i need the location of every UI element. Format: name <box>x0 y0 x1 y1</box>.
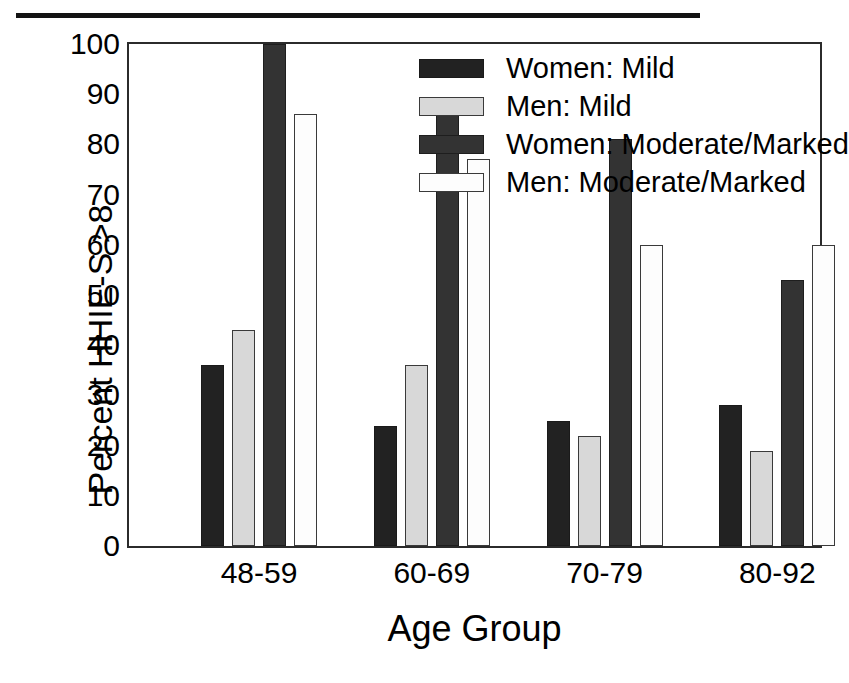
bar <box>405 365 428 546</box>
x-axis-tick-label: 60-69 <box>372 556 492 590</box>
y-axis-tick-label: 90 <box>87 79 120 109</box>
x-axis-tick-label: 70-79 <box>545 556 665 590</box>
y-axis-tick-label: 30 <box>87 380 120 410</box>
legend-swatch-icon <box>419 97 484 116</box>
y-axis-tick-label: 70 <box>87 180 120 210</box>
legend-item-label: Men: Moderate/Marked <box>506 168 806 197</box>
bar <box>232 330 255 546</box>
legend-swatch-icon <box>419 135 484 154</box>
bar <box>812 245 835 546</box>
bar <box>467 159 490 546</box>
bar <box>578 436 601 546</box>
legend-swatch-icon <box>419 59 484 78</box>
bar <box>263 44 286 546</box>
y-axis-tick-label: 100 <box>70 29 120 59</box>
chart-legend: Women: MildMen: MildWomen: Moderate/Mark… <box>419 49 819 201</box>
legend-item-label: Women: Moderate/Marked <box>506 130 849 159</box>
legend-item: Women: Mild <box>419 49 819 87</box>
bar <box>750 451 773 546</box>
x-axis-title: Age Group <box>127 608 822 650</box>
legend-item: Men: Moderate/Marked <box>419 163 819 201</box>
x-axis-tick-label: 80-92 <box>717 556 837 590</box>
bar <box>640 245 663 546</box>
y-axis-tick-label: 60 <box>87 230 120 260</box>
bar <box>374 426 397 546</box>
y-axis-tick-label: 40 <box>87 330 120 360</box>
y-axis-tick-label: 10 <box>87 481 120 511</box>
y-axis-tick-label: 20 <box>87 431 120 461</box>
bar <box>201 365 224 546</box>
legend-item-label: Men: Mild <box>506 92 632 121</box>
bar <box>719 405 742 546</box>
bar <box>294 114 317 546</box>
legend-item: Women: Moderate/Marked <box>419 125 819 163</box>
plot-frame: Women: MildMen: MildWomen: Moderate/Mark… <box>127 42 822 548</box>
bar <box>781 280 804 546</box>
y-axis-tick-label: 0 <box>103 531 120 561</box>
y-axis-tick-labels: 0102030405060708090100 <box>58 42 124 548</box>
legend-swatch-icon <box>419 173 484 192</box>
x-axis-tick-label: 48-59 <box>199 556 319 590</box>
y-axis-tick-label: 80 <box>87 129 120 159</box>
y-axis-tick-label: 50 <box>87 280 120 310</box>
x-axis-tick-labels: 48-5960-6970-7980-92 <box>127 556 822 598</box>
legend-item: Men: Mild <box>419 87 819 125</box>
legend-item-label: Women: Mild <box>506 54 675 83</box>
bar <box>547 421 570 547</box>
header-rule <box>16 13 700 18</box>
